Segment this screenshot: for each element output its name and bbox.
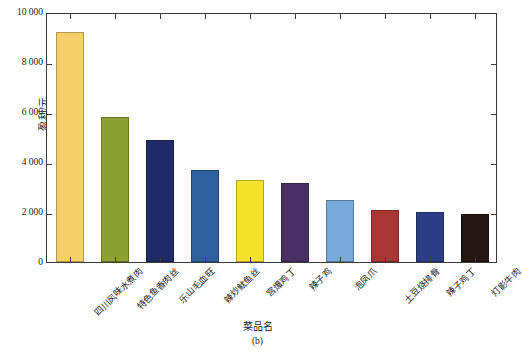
x-tick-mark (430, 257, 431, 262)
bar (371, 210, 399, 263)
x-tick-mark (205, 14, 206, 19)
x-tick-label: 泡凤爪 (353, 267, 378, 292)
bar (281, 183, 309, 262)
y-axis-tick-labels: 10 0008 0006 0004 0002 0000 (0, 0, 43, 357)
x-tick-mark (250, 257, 251, 262)
bar (146, 140, 174, 263)
x-tick-mark (70, 14, 71, 19)
x-tick-mark (160, 257, 161, 262)
x-tick-mark (250, 14, 251, 19)
bar (101, 117, 129, 262)
x-tick-mark (475, 14, 476, 19)
bar (461, 214, 489, 262)
y-tick-mark (491, 114, 496, 115)
x-tick-label: 辣子鸡丁 (446, 267, 478, 299)
y-tick-mark (47, 164, 52, 165)
x-tick-label: 乐山毛血旺 (178, 267, 216, 305)
x-tick-mark (295, 257, 296, 262)
x-tick-mark (295, 14, 296, 19)
x-tick-label: 灯影牛肉 (491, 267, 523, 299)
x-tick-mark (475, 257, 476, 262)
x-tick-mark (340, 14, 341, 19)
x-tick-mark (385, 257, 386, 262)
x-tick-label: 四川风味水煮肉 (93, 267, 144, 318)
x-tick-mark (205, 257, 206, 262)
y-tick-label: 2 000 (1, 208, 43, 218)
bar (56, 32, 84, 262)
x-tick-mark (160, 14, 161, 19)
bar (191, 170, 219, 263)
x-tick-mark (70, 257, 71, 262)
y-tick-label: 6 000 (1, 108, 43, 118)
bar (326, 200, 354, 263)
x-tick-label: 辣炒鱿鱼丝 (223, 267, 261, 305)
x-tick-label: 宫爆鸡丁 (265, 267, 297, 299)
x-tick-mark (385, 14, 386, 19)
plot-frame (46, 13, 497, 263)
x-tick-mark (115, 14, 116, 19)
plot-area (47, 14, 496, 262)
y-tick-label: 4 000 (1, 158, 43, 168)
y-tick-mark (47, 114, 52, 115)
x-tick-label: 辣子鸡 (308, 267, 333, 292)
bar (416, 212, 444, 263)
y-tick-mark (47, 214, 52, 215)
y-tick-label: 0 (1, 258, 43, 268)
y-tick-mark (491, 214, 496, 215)
y-tick-mark (491, 164, 496, 165)
y-tick-label: 8 000 (1, 58, 43, 68)
bar (236, 180, 264, 263)
figure-caption: (b) (0, 336, 515, 346)
y-tick-mark (491, 64, 496, 65)
x-tick-mark (430, 14, 431, 19)
x-axis-title: 菜品名 (0, 318, 515, 333)
x-tick-mark (340, 257, 341, 262)
y-tick-mark (47, 64, 52, 65)
x-tick-label: 土豆烧排骨 (403, 267, 441, 305)
y-tick-label: 10 000 (1, 8, 43, 18)
x-tick-mark (115, 257, 116, 262)
